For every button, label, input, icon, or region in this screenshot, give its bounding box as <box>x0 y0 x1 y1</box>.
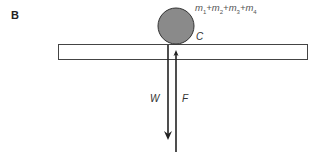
contact-point-label: C <box>196 31 203 42</box>
normal-force-label: F <box>182 93 188 104</box>
ball-mass <box>158 8 194 44</box>
weight-label: W <box>150 93 159 104</box>
panel-label: B <box>11 9 19 21</box>
mass-label: m1+m2+m3+m4 <box>195 2 257 15</box>
beam <box>59 45 308 60</box>
free-body-diagram <box>0 0 325 152</box>
